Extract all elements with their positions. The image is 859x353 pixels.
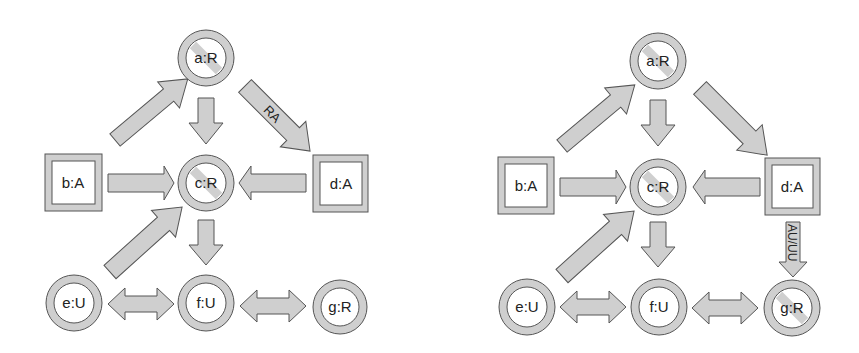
node-a: a:R [630,33,686,89]
arrow-d-to-c [239,166,306,200]
node-d: d:A [765,158,820,215]
node-label-d: d:A [781,178,804,195]
arrow-f-g-bidirectional [240,290,306,322]
arrow-d-to-c [693,170,760,204]
arrow-c-to-f [189,220,223,265]
node-a: a:R [178,30,234,86]
arrow-a-to-d [687,75,780,168]
node-label-b: b:A [515,177,538,194]
node-label-g: g:R [780,299,804,316]
arrow-e-to-c [98,194,194,286]
node-c: c:R [178,155,234,211]
node-label-g: g:R [328,298,352,315]
node-g: g:R [313,280,367,334]
arrow-b-to-a [104,66,199,153]
arrow-f-g-bidirectional [692,292,758,324]
node-label-a: a:R [194,49,218,66]
node-f: f:U [178,275,234,331]
node-label-c: c:R [647,178,670,195]
node-g: g:R [764,280,820,336]
node-label-d: d:A [330,175,353,192]
node-label-b: b:A [62,174,85,191]
node-b: b:A [498,157,554,214]
arrow-b-to-c [108,166,174,200]
arrow-a-to-c [641,100,675,146]
node-label-a: a:R [646,52,670,69]
arrow-c-to-f [641,222,675,267]
arrow-a-to-d: RA [232,73,323,164]
node-b: b:A [45,154,102,211]
left-diagram: RA a:R [45,30,368,334]
arrow-d-to-g: AU/UU [779,222,807,277]
arrow-b-to-a [551,72,646,159]
arrow-e-f-bidirectional [108,288,174,320]
node-f: f:U [631,279,687,335]
node-label-f: f:U [196,294,215,311]
arrow-a-to-c [189,98,223,144]
arrow-b-to-c [560,170,626,204]
node-d: d:A [313,155,368,212]
node-label-c: c:R [195,174,218,191]
arrow-e-f-bidirectional [560,291,626,323]
node-label-e: e:U [62,294,85,311]
arrow-e-to-c [550,198,646,290]
edge-label-au-uu: AU/UU [785,224,799,261]
node-label-e: e:U [515,298,538,315]
node-e: e:U [499,279,555,335]
node-label-f: f:U [649,298,668,315]
right-diagram: AU/UU a:R c:R [498,33,820,336]
node-c: c:R [630,159,686,215]
node-e: e:U [46,275,102,331]
